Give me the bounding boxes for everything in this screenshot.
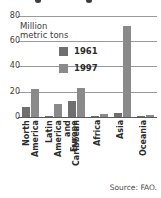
chart-legend: 1961 1997 [59, 45, 98, 79]
ytick-label-60: 60 [10, 37, 20, 45]
legend-swatch-1997-icon [59, 64, 68, 73]
bar-asia-1961 [114, 113, 122, 117]
category-axis-labels: North America Latin America and Caribbea… [18, 120, 157, 178]
bar-europe-1997 [77, 88, 85, 117]
clipped-marker-icon-right [86, 0, 92, 3]
ytick-label-40: 40 [10, 62, 20, 70]
bar-africa-1997 [100, 114, 108, 117]
bar-oceania-1961 [137, 116, 145, 117]
bar-latin-america-1997 [54, 104, 62, 117]
bar-europe-1961 [68, 101, 76, 117]
legend-label-1997: 1997 [74, 64, 98, 73]
category-label-north-america: North America [22, 120, 40, 176]
bar-latin-america-1961 [45, 116, 53, 117]
clipped-marker-icon-left [35, 0, 41, 3]
legend-item-1961: 1961 [59, 45, 98, 57]
bar-group-asia [112, 16, 133, 117]
ytick-label-20: 20 [10, 88, 20, 96]
category-label-oceania: Oceania [139, 120, 148, 176]
bar-north-america-1961 [22, 107, 30, 117]
bar-africa-1961 [91, 116, 99, 117]
category-label-africa: Africa [93, 120, 102, 176]
y-axis-unit-line2: metric tons [20, 31, 68, 41]
ytick-label-80: 80 [10, 12, 20, 20]
legend-label-1961: 1961 [74, 47, 98, 56]
category-label-asia: Asia [116, 120, 125, 176]
bar-north-america-1997 [31, 89, 39, 117]
source-note: Source: FAO. [110, 183, 157, 192]
category-label-europe: Europe [70, 120, 79, 176]
legend-item-1997: 1997 [59, 62, 98, 74]
axis-baseline-0 [18, 117, 157, 118]
bar-oceania-1997 [146, 115, 154, 117]
bar-asia-1997 [123, 26, 131, 117]
bar-group-oceania [135, 16, 156, 117]
chart-root: 80 60 40 20 0 Million metric tons 1961 1… [0, 0, 161, 198]
legend-swatch-1961-icon [59, 47, 68, 56]
